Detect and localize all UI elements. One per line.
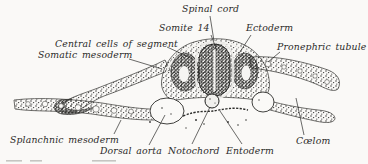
label-ectoderm: Ectoderm	[246, 23, 293, 33]
cropped-text-fragment	[6, 160, 116, 162]
label-notochord: Notochord	[168, 146, 220, 156]
notochord-shape	[205, 94, 219, 108]
label-splanchnic-mesoderm: Splanchnic mesoderm	[10, 135, 119, 145]
label-somatic-mesoderm: Somatic mesoderm	[38, 50, 133, 60]
label-coelom: Cœlom	[296, 136, 330, 146]
figure-embryo-section: Spinal cord Somite 14 Ectoderm Central c…	[0, 0, 368, 164]
label-somite-14: Somite 14	[159, 23, 210, 33]
neural-tube	[196, 42, 233, 98]
label-central-cells-of-segment: Central cells of segment	[55, 39, 178, 49]
label-spinal-cord: Spinal cord	[182, 4, 239, 14]
label-dorsal-aorta: Dorsal aorta	[100, 146, 162, 156]
entoderm-strand	[183, 108, 248, 116]
label-pronephric-tubule: Pronephric tubule	[277, 42, 367, 52]
label-entoderm: Entoderm	[226, 146, 274, 156]
